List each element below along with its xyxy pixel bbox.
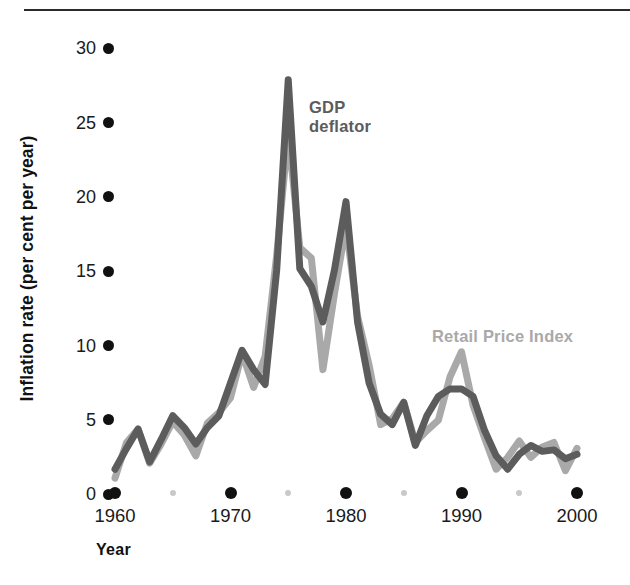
inflation-chart-figure: Inflation rate (per cent per year) Year … <box>0 0 630 585</box>
plot-area <box>0 0 630 585</box>
series-label-gdp-deflator: GDP deflator <box>309 98 371 136</box>
series-label-retail-price-index: Retail Price Index <box>432 327 573 346</box>
series-line-gdp-deflator <box>115 80 577 470</box>
